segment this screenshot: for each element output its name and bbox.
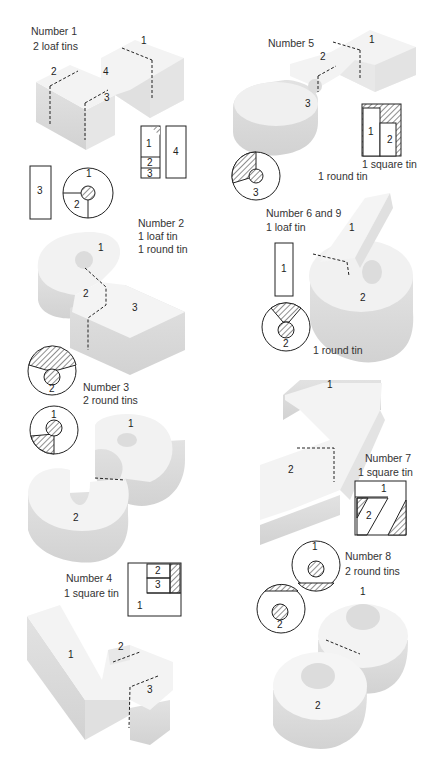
n2-piece-2: 2 — [83, 288, 89, 299]
number-6-9-title: Number 6 and 9 — [266, 207, 341, 220]
number-6-9-tin-diagrams — [262, 243, 310, 351]
tin-2-label: 2 — [147, 157, 153, 168]
number-5-title: Number 5 — [268, 37, 314, 50]
n3-piece-2: 2 — [73, 512, 79, 523]
n5-piece-2: 2 — [320, 51, 326, 62]
number-1-title: Number 1 — [31, 25, 77, 38]
tin-1-label: 1 — [146, 138, 152, 149]
number-2-loaf-tin: 1 loaf tin — [138, 230, 178, 243]
number-2-title: Number 2 — [138, 217, 184, 230]
n7-sq-2: 2 — [366, 510, 372, 521]
n8-piece-2: 2 — [315, 700, 321, 711]
n69-ring-2: 2 — [283, 338, 289, 349]
number-1-tin-diagrams — [30, 126, 186, 219]
n8-ring-2: 2 — [277, 619, 283, 630]
number-6-9-loaf-tin: 1 loaf tin — [266, 221, 306, 234]
number-1-cake — [36, 40, 184, 150]
n4-piece-3: 3 — [147, 684, 153, 695]
number-cakes-diagram — [0, 0, 429, 782]
n5-ring-3: 3 — [253, 187, 259, 198]
n5-sq-1: 1 — [368, 126, 374, 137]
number-3-tins: 2 round tins — [83, 394, 138, 407]
n7-piece-2: 2 — [288, 464, 294, 475]
n69-piece-1: 1 — [349, 222, 355, 233]
n1-piece-1: 1 — [141, 35, 147, 46]
n4-piece-2: 2 — [118, 641, 124, 652]
n5-piece-3: 3 — [305, 98, 311, 109]
n5-piece-1: 1 — [369, 34, 375, 45]
n3-ring-1: 1 — [51, 409, 57, 420]
number-8-title: Number 8 — [345, 550, 391, 563]
number-5-round-tin: 1 round tin — [318, 170, 368, 183]
number-3-tin-diagrams — [28, 346, 78, 454]
n1-piece-2: 2 — [51, 66, 57, 77]
n8-piece-1: 1 — [360, 586, 366, 597]
n4-sq-1: 1 — [137, 600, 143, 611]
number-7-title: Number 7 — [365, 452, 411, 465]
number-3-title: Number 3 — [83, 381, 129, 394]
ring-2-label: 2 — [74, 199, 80, 210]
n2-piece-1: 1 — [98, 242, 104, 253]
n5-sq-2: 2 — [387, 134, 393, 145]
n3-ring-2: 2 — [49, 383, 55, 394]
n7-sq-1: 1 — [381, 483, 387, 494]
number-2-round-tin: 1 round tin — [138, 243, 188, 256]
tin-4-label: 4 — [173, 146, 179, 157]
number-5-square-tin: 1 square tin — [362, 158, 417, 171]
n69-tin-1: 1 — [281, 263, 287, 274]
number-7-tins: 1 square tin — [358, 466, 413, 479]
number-4-tins: 1 square tin — [64, 587, 119, 600]
number-8-tins: 2 round tins — [345, 565, 400, 578]
n1-piece-3: 3 — [104, 92, 110, 103]
n69-piece-2: 2 — [360, 292, 366, 303]
tin-3b-label: 3 — [37, 185, 43, 196]
n3-piece-1: 1 — [128, 418, 134, 429]
number-6-9-round-tin: 1 round tin — [313, 344, 363, 357]
ring-1-label: 1 — [86, 168, 92, 179]
number-4-cake — [27, 605, 173, 745]
n4-sq-2: 2 — [155, 565, 161, 576]
number-4-title: Number 4 — [66, 572, 112, 585]
n7-piece-1: 1 — [327, 379, 333, 390]
n8-ring-1: 1 — [312, 541, 318, 552]
number-1-tins: 2 loaf tins — [33, 40, 78, 53]
n4-piece-1: 1 — [68, 649, 74, 660]
n4-sq-3: 3 — [155, 579, 161, 590]
n2-piece-3: 3 — [132, 302, 138, 313]
n1-piece-4: 4 — [103, 66, 109, 77]
tin-3-label: 3 — [147, 168, 153, 179]
